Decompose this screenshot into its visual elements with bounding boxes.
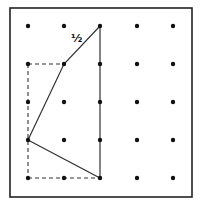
- dashed-rectangle: [28, 64, 100, 178]
- geoboard-diagram: ½: [0, 0, 200, 205]
- half-label: ½: [71, 32, 82, 45]
